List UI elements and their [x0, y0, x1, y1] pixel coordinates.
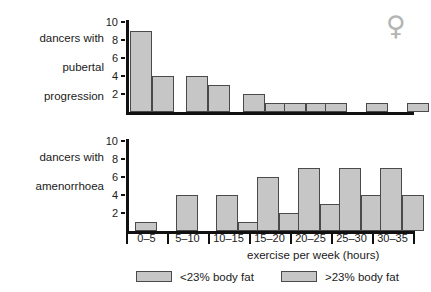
- top-bar-20-25-low: [325, 103, 347, 112]
- bottom-y-title-line-2: amenorrhoea: [8, 179, 104, 194]
- top-bar-5-10-high: [208, 85, 230, 112]
- top-ytick-4: 4: [100, 71, 118, 82]
- top-ytick-6: 6: [100, 53, 118, 64]
- bottom-ytick-10: 10: [100, 136, 118, 147]
- top-bar-25-30-low: [366, 103, 388, 112]
- top-chart-x-axis: [126, 112, 414, 115]
- category-label-0-5: 0–5: [126, 232, 167, 244]
- bottom-bar-20-25-low: [298, 168, 320, 231]
- legend-item-high-body-fat: >23% body fat: [281, 270, 431, 284]
- bottom-ytick-4: 4: [100, 190, 118, 201]
- top-chart-panel: dancers with pubertal progression 10 8 6…: [0, 0, 420, 130]
- bottom-ytick-6: 6: [100, 172, 118, 183]
- top-bar-15-20-low: [284, 103, 306, 112]
- bottom-tick-mark-4: [121, 194, 125, 196]
- top-y-title-line-3: progression: [8, 89, 104, 104]
- bottom-chart-panel: dancers with amenorrhoea 10 8 6 4 2: [0, 130, 420, 292]
- top-tick-mark-2: [121, 93, 125, 95]
- bottom-ytick-2: 2: [100, 208, 118, 219]
- category-label-10-15: 10–15: [208, 232, 249, 244]
- top-chart-y-axis-title: dancers with pubertal progression: [8, 16, 104, 118]
- legend-swatch-low-body-fat: [136, 271, 172, 282]
- bottom-bar-30-35-low: [380, 168, 402, 231]
- top-tick-mark-10: [121, 21, 125, 23]
- top-bar-10-15-low: [243, 94, 265, 112]
- top-tick-mark-4: [121, 75, 125, 77]
- bottom-chart-y-axis-title: dancers with amenorrhoea: [8, 135, 104, 208]
- bottom-bar-5-10-low: [176, 195, 198, 231]
- x-axis-title: exercise per week (hours): [247, 249, 379, 261]
- top-ytick-2: 2: [100, 89, 118, 100]
- category-label-5-10: 5–10: [167, 232, 208, 244]
- bottom-chart-y-axis: [126, 139, 129, 233]
- legend-label-low-body-fat: <23% body fat: [180, 271, 254, 283]
- category-separator-7: [413, 231, 415, 244]
- top-bar-0-5-high: [152, 76, 174, 112]
- bottom-tick-mark-10: [121, 140, 125, 142]
- bottom-bar-0-5-low: [135, 222, 157, 231]
- bottom-y-title-line-1: dancers with: [8, 150, 104, 165]
- bottom-tick-mark-8: [121, 158, 125, 160]
- legend-item-low-body-fat: <23% body fat: [136, 270, 286, 284]
- legend-swatch-high-body-fat: [281, 271, 317, 282]
- bottom-bar-30-35-high: [402, 195, 424, 231]
- category-axis: 0–5 5–10 10–15 15–20 20–25 25–30 30–35: [126, 231, 416, 247]
- top-bar-0-5-low: [130, 31, 152, 112]
- bottom-tick-mark-2: [121, 212, 125, 214]
- top-bar-5-10-low: [186, 76, 208, 112]
- legend-label-high-body-fat: >23% body fat: [325, 271, 399, 283]
- category-label-30-35: 30–35: [372, 232, 413, 244]
- top-tick-mark-6: [121, 57, 125, 59]
- top-bar-30-35-low: [407, 103, 429, 112]
- bottom-bar-15-20-low: [257, 177, 279, 231]
- category-label-20-25: 20–25: [290, 232, 331, 244]
- bottom-bar-10-15-low: [216, 195, 238, 231]
- bottom-chart-plot-area: [126, 139, 414, 234]
- top-y-title-line-2: pubertal: [8, 60, 104, 75]
- top-ytick-8: 8: [100, 35, 118, 46]
- category-label-25-30: 25–30: [331, 232, 372, 244]
- top-tick-mark-8: [121, 39, 125, 41]
- bottom-bar-25-30-low: [339, 168, 361, 231]
- category-label-15-20: 15–20: [249, 232, 290, 244]
- top-chart-plot-area: [126, 20, 414, 115]
- top-ytick-10: 10: [100, 17, 118, 28]
- female-venus-symbol: ♀: [386, 12, 406, 39]
- bottom-tick-mark-6: [121, 176, 125, 178]
- top-chart-y-axis: [126, 20, 129, 114]
- top-y-title-line-1: dancers with: [8, 31, 104, 46]
- bottom-ytick-8: 8: [100, 154, 118, 165]
